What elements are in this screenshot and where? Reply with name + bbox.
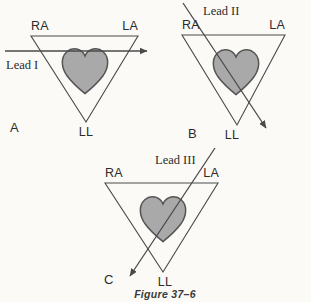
panel-b-label-la: LA [269, 18, 285, 32]
panel-a-label-la: LA [122, 19, 138, 33]
panel-c-letter: C [104, 272, 113, 287]
panel-a-label-ll: LL [79, 125, 93, 139]
heart-icon [213, 50, 258, 95]
panel-b-letter: B [188, 126, 197, 141]
panel-c-label-ra: RA [105, 166, 123, 180]
panel-a-letter: A [10, 120, 19, 135]
panel-a: RA LA LL Lead I A [5, 19, 147, 139]
panel-b-label-ll: LL [225, 128, 239, 142]
panel-b: RA LA LL Lead II B [182, 3, 285, 142]
figure-canvas: RA LA LL Lead I A RA LA LL Lead II B [0, 0, 311, 302]
panel-c-label-ll: LL [158, 275, 172, 289]
panel-a-label-ra: RA [31, 19, 49, 33]
panel-c-lead-label: Lead III [155, 153, 196, 167]
figure-caption: Figure 37–6 [134, 288, 196, 300]
panel-b-label-ra: RA [182, 18, 200, 32]
panel-a-lead-label: Lead I [6, 58, 38, 72]
heart-icon [62, 49, 107, 94]
panel-c: RA LA LL Lead III C [104, 148, 219, 289]
panel-b-heart [213, 50, 258, 95]
panel-a-heart [62, 49, 107, 94]
panel-b-lead-label: Lead II [203, 4, 239, 18]
einthoven-triangle-figure: RA LA LL Lead I A RA LA LL Lead II B [0, 0, 311, 302]
panel-c-label-la: LA [203, 166, 219, 180]
